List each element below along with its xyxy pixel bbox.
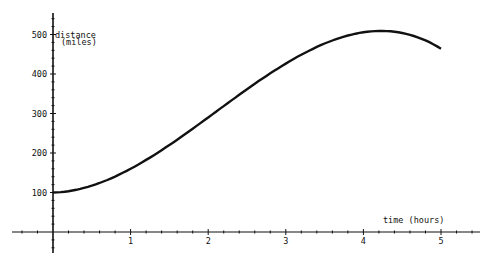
y-tick-label: 300 [32, 109, 47, 119]
line-chart: 12345100200300400500 distance (miles) ti… [0, 0, 492, 269]
y-axis-title-unit: (miles) [61, 37, 97, 47]
y-tick-label: 400 [32, 69, 47, 79]
x-axis-title: time (hours) [383, 215, 444, 225]
x-tick-label: 4 [361, 236, 366, 246]
x-tick-label: 1 [128, 236, 133, 246]
x-tick-label: 3 [283, 236, 288, 246]
y-tick-label: 500 [32, 30, 47, 40]
x-tick-label: 5 [438, 236, 443, 246]
y-tick-label: 100 [32, 188, 47, 198]
distance-curve [53, 31, 441, 193]
y-tick-label: 200 [32, 148, 47, 158]
x-tick-label: 2 [206, 236, 211, 246]
